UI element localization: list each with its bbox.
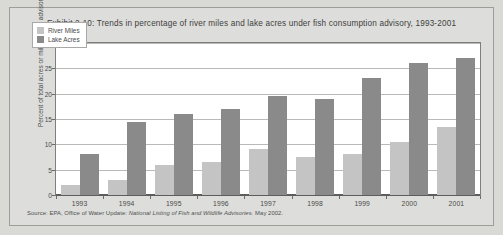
x-tick-label-1996: 1996 [197,200,244,207]
bar-group-1995 [150,43,197,195]
bar-lake-acres-1998 [315,99,334,195]
bar-group-1997 [244,43,291,195]
x-tick-label-1995: 1995 [150,200,197,207]
bar-lake-acres-1994 [127,122,146,195]
bar-group-2001 [433,43,480,195]
bar-river-miles-2000 [390,142,409,195]
bar-river-miles-2001 [437,127,456,195]
x-tickmark-1997 [244,196,245,199]
x-tickmark-end [480,196,481,199]
bar-lake-acres-1996 [221,109,240,195]
bar-river-miles-1997 [249,149,268,195]
bar-river-miles-1993 [61,185,80,195]
legend-item-lake-acres: Lake Acres [37,35,80,44]
y-tick-label-15: 15 [36,116,52,123]
bar-series-container [56,43,480,195]
bar-lake-acres-1997 [268,96,287,195]
bar-river-miles-1998 [296,157,315,195]
x-tick-label-1997: 1997 [244,200,291,207]
bar-group-1996 [197,43,244,195]
bar-river-miles-1999 [343,154,362,195]
bar-group-1998 [292,43,339,195]
bar-lake-acres-1995 [174,114,193,195]
y-axis-tick-labels: 051015202530 [34,43,52,195]
x-axis-tick-labels: 199319941995199619971998199920002001 [56,200,480,207]
source-note: Source: EPA, Office of Water Update: Nat… [27,210,283,216]
bar-river-miles-1995 [155,165,174,195]
figure-panel: Exhibit 2-10: Trends in percentage of ri… [9,7,494,226]
x-tickmark-1993 [56,196,57,199]
x-tick-label-1998: 1998 [292,200,339,207]
y-tick-label-20: 20 [36,90,52,97]
bar-lake-acres-2001 [456,58,475,195]
legend-label: Lake Acres [48,36,80,43]
screenshot-root: Exhibit 2-10: Trends in percentage of ri… [0,0,503,235]
bar-lake-acres-1999 [362,78,381,195]
bar-group-1993 [56,43,103,195]
x-tickmark-1994 [103,196,104,199]
legend-label: River Miles [48,27,80,34]
bar-lake-acres-2000 [409,63,428,195]
bar-lake-acres-1993 [80,154,99,195]
y-tick-label-0: 0 [36,192,52,199]
x-tick-label-2000: 2000 [386,200,433,207]
x-tick-label-1999: 1999 [339,200,386,207]
x-tick-label-1993: 1993 [56,200,103,207]
x-tickmark-1995 [150,196,151,199]
source-prefix: Source: EPA, Office of Water Update: [27,210,127,216]
x-tickmark-1996 [197,196,198,199]
legend-item-river-miles: River Miles [37,26,80,35]
bar-river-miles-1994 [108,180,127,195]
y-tick-label-5: 5 [36,166,52,173]
bar-group-2000 [386,43,433,195]
x-tickmark-1998 [292,196,293,199]
x-tickmark-1999 [339,196,340,199]
source-publication: National Listing of Fish and Wildlife Ad… [129,210,254,216]
y-tick-label-10: 10 [36,141,52,148]
x-tickmark-2000 [386,196,387,199]
x-tick-label-2001: 2001 [433,200,480,207]
legend-swatch-icon [37,27,44,34]
chart-legend: River MilesLake Acres [32,22,87,48]
source-date: May 2002. [255,210,283,216]
x-tickmark-2001 [433,196,434,199]
legend-swatch-icon [37,36,44,43]
bar-group-1994 [103,43,150,195]
bar-group-1999 [339,43,386,195]
bar-river-miles-1996 [202,162,221,195]
x-tick-label-1994: 1994 [103,200,150,207]
y-tick-label-25: 25 [36,65,52,72]
